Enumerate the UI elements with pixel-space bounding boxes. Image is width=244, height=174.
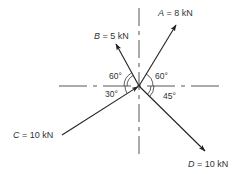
force-label-a: A = 8 kN [157,8,193,18]
angle-arc-d-inner [148,86,152,95]
angle-arc-b-outer [124,73,132,86]
angle-arc-c [125,86,127,93]
angle-arc-b-inner [127,76,133,86]
force-label-b: B = 5 kN [94,31,129,41]
angle-arc-a [146,74,153,86]
angle-label-a: 60° [155,71,168,81]
force-label-d: D = 10 kN [188,159,228,169]
angle-label-c: 30° [105,89,118,99]
force-vector-c [62,87,138,135]
angle-label-d: 45° [163,91,176,101]
force-label-c: C = 10 kN [13,130,53,140]
angle-label-b: 60° [109,71,122,81]
force-diagram: A = 8 kN B = 5 kN C = 10 kN D = 10 kN 60… [0,0,244,174]
